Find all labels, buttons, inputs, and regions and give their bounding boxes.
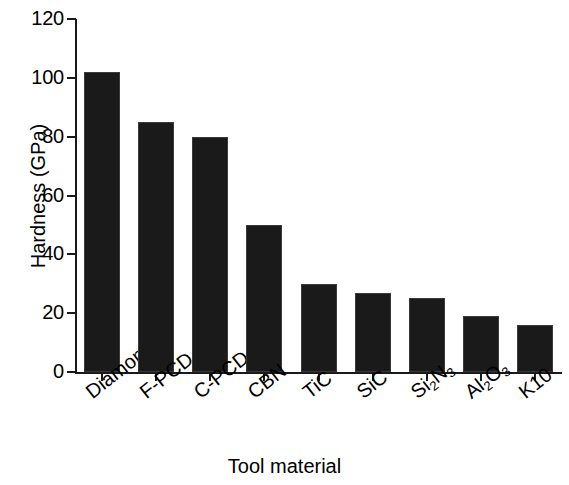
y-axis-tick-label: 100 <box>31 67 64 87</box>
y-axis-tick-label: 80 <box>42 126 64 146</box>
bar <box>84 72 120 372</box>
bar <box>246 225 282 372</box>
y-axis-tick-label: 120 <box>31 8 64 28</box>
bar-chart: Hardness (GPa) 020406080100120 DiamondF-… <box>0 0 569 485</box>
y-axis-tick-label: 0 <box>53 361 64 381</box>
bar <box>192 137 228 372</box>
y-axis-tick-label: 40 <box>42 243 64 263</box>
bar <box>138 122 174 372</box>
bar <box>355 293 391 372</box>
y-axis-tick-label: 60 <box>42 185 64 205</box>
x-axis-title: Tool material <box>0 455 569 477</box>
y-axis-line <box>75 19 77 374</box>
bar <box>517 325 553 372</box>
bar <box>301 284 337 372</box>
y-axis-tick-label: 20 <box>42 302 64 322</box>
